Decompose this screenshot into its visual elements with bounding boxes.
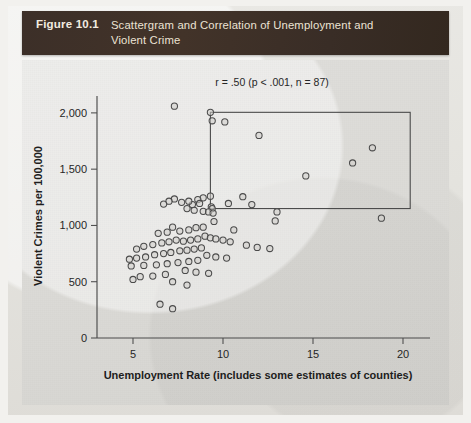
scatter-point [209, 118, 215, 124]
scatter-point [170, 306, 176, 312]
scatter-point [186, 227, 192, 233]
scatter-point [166, 239, 172, 245]
scatter-point [272, 218, 278, 224]
y-tick-label: 2,000 [59, 107, 87, 119]
scatter-point [155, 230, 161, 236]
correlation-annotation: r = .50 (p < .001, n = 87) [215, 76, 329, 88]
scatter-point [164, 261, 170, 267]
scatter-point [164, 229, 170, 235]
scatter-point [195, 257, 201, 263]
scatter-point [150, 273, 156, 279]
scatter-point [193, 225, 199, 231]
scatter-point [184, 282, 190, 288]
scatter-point [225, 200, 231, 206]
scatter-point [161, 250, 167, 256]
scatter-point [191, 246, 197, 252]
scatter-point [180, 238, 186, 244]
scatter-point [206, 270, 212, 276]
scatter-point [134, 255, 140, 261]
scatter-point [126, 256, 132, 262]
x-tick-label: 10 [217, 348, 229, 360]
scatter-point [186, 198, 192, 204]
scatter-point [130, 276, 136, 282]
x-axis-title: Unemployment Rate (includes some estimat… [104, 369, 413, 381]
scatter-point [211, 218, 217, 224]
scatter-point [186, 258, 192, 264]
scatter-point [157, 301, 163, 307]
scatter-point [152, 252, 158, 258]
y-tick-label: 1,000 [59, 219, 87, 231]
scatter-point [171, 103, 177, 109]
scatter-points-group [126, 103, 384, 312]
scatter-point [182, 267, 188, 273]
x-tick-label: 15 [307, 348, 319, 360]
scatter-point [141, 243, 147, 249]
scatter-point [210, 210, 216, 216]
scatter-point [177, 228, 183, 234]
scatter-point [170, 279, 176, 285]
x-axis-ticks: 5101520 [130, 338, 409, 360]
scatter-point [240, 194, 246, 200]
y-axis-title: Violent Crimes per 100,000 [32, 146, 44, 286]
scatter-chart: 05001,0001,5002,000 5101520 r = .50 (p <… [0, 0, 471, 423]
scatter-point [150, 241, 156, 247]
scatter-point [249, 202, 255, 208]
scatter-point [200, 224, 206, 230]
scatter-point [162, 271, 168, 277]
scatter-point [161, 201, 167, 207]
scatter-point [184, 247, 190, 253]
scatter-point [350, 160, 356, 166]
scatter-point [207, 109, 213, 115]
scatter-point [173, 237, 179, 243]
y-axis-ticks: 05001,0001,5002,000 [59, 107, 97, 344]
scatter-point [153, 262, 159, 268]
scatter-point [369, 145, 375, 151]
scatter-point [195, 236, 201, 242]
scatter-point [137, 274, 143, 280]
scatter-point [204, 252, 210, 258]
scatter-point [213, 254, 219, 260]
x-tick-label: 20 [397, 348, 409, 360]
scatter-point [207, 193, 213, 199]
scatter-point [213, 236, 219, 242]
y-tick-label: 0 [81, 332, 87, 344]
x-tick-label: 5 [130, 348, 136, 360]
scatter-point [303, 173, 309, 179]
scatter-point [193, 269, 199, 275]
scatter-point [134, 246, 140, 252]
scatter-point [231, 227, 237, 233]
scatter-point [128, 263, 134, 269]
scatter-point [220, 237, 226, 243]
scatter-point [175, 259, 181, 265]
scatter-point [243, 242, 249, 248]
scatter-point [143, 254, 149, 260]
scatter-point [191, 207, 197, 213]
scatter-point [267, 245, 273, 251]
scatter-point [222, 119, 228, 125]
scatter-point [256, 132, 262, 138]
scatter-point [168, 249, 174, 255]
scatter-point [141, 262, 147, 268]
y-tick-label: 1,500 [59, 163, 87, 175]
scatter-point [179, 199, 185, 205]
scatter-point [184, 205, 190, 211]
figure-root: Figure 10.1 Scattergram and Correlation … [0, 0, 471, 423]
scatter-point [198, 245, 204, 251]
scatter-point [378, 215, 384, 221]
scatter-point [254, 244, 260, 250]
scatter-point [274, 209, 280, 215]
scatter-point [224, 255, 230, 261]
y-tick-label: 500 [69, 276, 87, 288]
scatter-point [170, 224, 176, 230]
scatter-point [188, 237, 194, 243]
scatter-point [197, 200, 203, 206]
scatter-point [159, 240, 165, 246]
scatter-point [177, 248, 183, 254]
scatter-point [227, 239, 233, 245]
